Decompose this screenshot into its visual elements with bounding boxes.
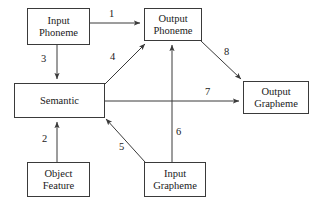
- node-label-primary: Object: [45, 168, 73, 180]
- edge-arrow-5: [106, 119, 145, 162]
- edge-arrow-4: [105, 44, 145, 84]
- node-label-secondary: Grapheme: [254, 98, 298, 110]
- node-output-phoneme: OutputPhoneme: [144, 8, 202, 41]
- node-label-secondary: Phoneme: [39, 27, 78, 39]
- node-semantic: Semantic: [14, 83, 105, 118]
- edge-label-1: 1: [109, 9, 114, 20]
- node-label-primary: Input: [164, 168, 186, 180]
- node-label-primary: Output: [158, 13, 187, 25]
- edge-label-6: 6: [176, 127, 181, 138]
- diagram-canvas: InputPhonemeOutputPhonemeSemanticOutputG…: [0, 0, 325, 204]
- edge-label-8: 8: [224, 47, 229, 58]
- node-label-primary: Output: [261, 86, 290, 98]
- edge-label-5: 5: [119, 142, 124, 153]
- node-label-primary: Input: [47, 15, 69, 27]
- edge-label-3: 3: [41, 54, 46, 65]
- edge-arrow-8: [201, 41, 241, 79]
- node-label-secondary: Grapheme: [153, 180, 197, 192]
- node-label-primary: Semantic: [40, 95, 79, 107]
- node-label-secondary: Phoneme: [153, 25, 192, 37]
- node-input-phoneme: InputPhoneme: [27, 8, 90, 45]
- edge-label-2: 2: [42, 134, 47, 145]
- edge-label-7: 7: [205, 87, 210, 98]
- node-output-grapheme: OutputGrapheme: [243, 81, 309, 114]
- edge-label-4: 4: [110, 52, 115, 63]
- node-label-secondary: Feature: [43, 180, 75, 192]
- node-object-feature: ObjectFeature: [27, 162, 90, 197]
- node-input-grapheme: InputGrapheme: [144, 162, 206, 197]
